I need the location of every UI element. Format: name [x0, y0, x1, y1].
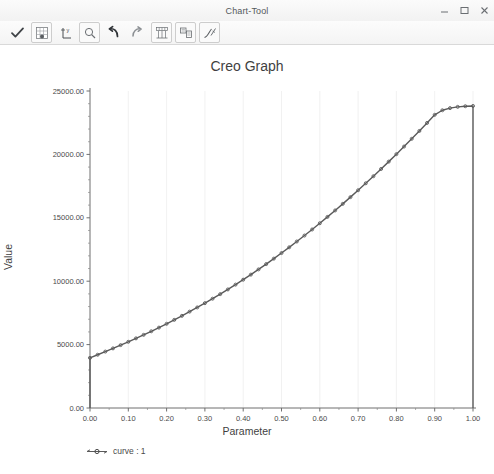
window-titlebar: Chart-Tool	[0, 0, 494, 22]
curve-style-button[interactable]	[199, 22, 220, 43]
plot-svg: 0.005000.0010000.0015000.0020000.0025000…	[0, 46, 494, 474]
undo-button[interactable]	[103, 22, 124, 43]
chart-canvas: Creo Graph 0.005000.0010000.0015000.0020…	[0, 46, 494, 474]
x-tick-label: 0.40	[236, 414, 251, 423]
x-tick-label: 0.20	[159, 414, 174, 423]
x-axis-title: Parameter	[0, 425, 494, 437]
chart-legend[interactable]: curve : 1	[86, 446, 146, 456]
redo-button[interactable]	[127, 22, 148, 43]
grid-layout-button[interactable]	[151, 22, 172, 43]
y-tick-label: 15000.00	[53, 213, 84, 222]
x-tick-label: 0.10	[121, 414, 136, 423]
x-tick-label: 0.00	[83, 414, 98, 423]
legend-entry-label: curve : 1	[113, 446, 146, 456]
x-tick-label: 0.50	[274, 414, 289, 423]
x-tick-label: 0.90	[427, 414, 442, 423]
y-tick-label: 10000.00	[53, 277, 84, 286]
minimize-button[interactable]	[439, 5, 450, 16]
accept-button[interactable]	[7, 22, 28, 43]
x-tick-label: 0.80	[389, 414, 404, 423]
chart-tool-window: Chart-Tool	[0, 0, 494, 474]
toolbar: y	[0, 21, 494, 45]
y-axis-title: Value	[2, 227, 14, 287]
x-tick-label: 1.00	[466, 414, 481, 423]
svg-text:y: y	[66, 27, 69, 33]
graph-settings-button[interactable]: y	[55, 22, 76, 43]
x-tick-label: 0.60	[312, 414, 327, 423]
legend-button[interactable]	[175, 22, 196, 43]
zoom-button[interactable]	[79, 22, 100, 43]
maximize-button[interactable]	[459, 5, 470, 16]
x-tick-label: 0.30	[198, 414, 213, 423]
y-tick-label: 20000.00	[53, 150, 84, 159]
y-tick-label: 5000.00	[57, 340, 84, 349]
window-controls	[439, 0, 490, 21]
show-table-button[interactable]	[31, 22, 52, 43]
y-tick-label: 25000.00	[53, 87, 84, 96]
close-button[interactable]	[479, 5, 490, 16]
x-tick-label: 0.70	[351, 414, 366, 423]
y-tick-label: 0.00	[69, 404, 84, 413]
window-title: Chart-Tool	[225, 6, 268, 16]
legend-marker-icon	[86, 447, 108, 456]
